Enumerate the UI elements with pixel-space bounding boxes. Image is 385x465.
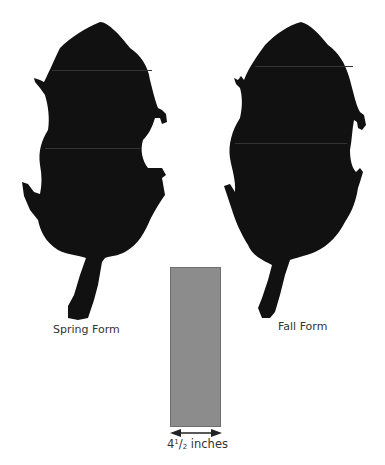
spring-form-label: Spring Form: [53, 323, 120, 336]
fall-form-label: Fall Form: [278, 320, 327, 333]
scale-unit: inches: [191, 437, 228, 451]
fall-form-silhouette: [224, 22, 366, 318]
scale-label: 41/2 inches: [167, 437, 228, 451]
pelt-comparison-figure: Spring Form Fall Form 41/2 inches: [0, 0, 385, 465]
scale-numerator: 1: [174, 438, 178, 446]
scale-denominator: 2: [183, 443, 187, 451]
spring-form-silhouette: [22, 22, 167, 320]
scale-arrow: [170, 429, 222, 437]
scale-reference-rectangle: [170, 267, 221, 427]
